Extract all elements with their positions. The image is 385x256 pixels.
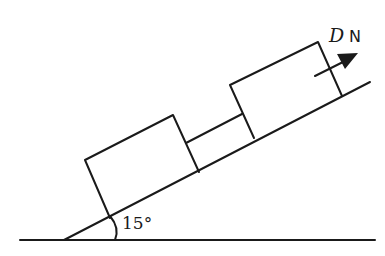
force-arrow-shaft — [315, 61, 345, 76]
upper-block — [230, 42, 342, 138]
force-arrow-head — [337, 53, 358, 69]
angle-label: 15° — [122, 213, 152, 233]
force-symbol: D — [328, 24, 344, 46]
incline-diagram: 15° D N — [0, 0, 385, 256]
connector-rod-top — [186, 114, 242, 143]
force-unit: N — [349, 27, 361, 46]
angle-arc — [110, 216, 117, 240]
lower-block — [85, 115, 199, 218]
